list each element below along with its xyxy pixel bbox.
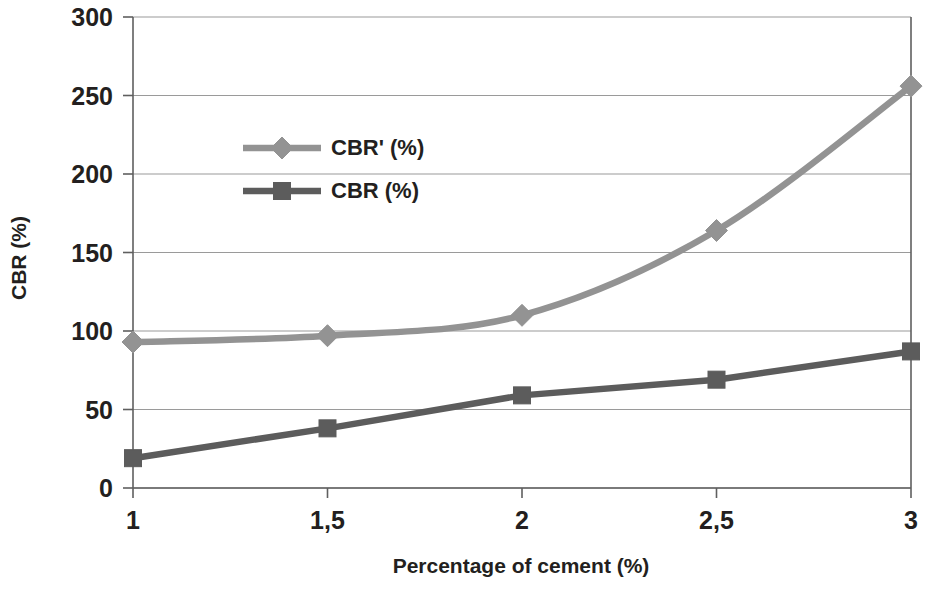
y-tick-label: 50 [85,396,113,424]
legend-label: CBR' (%) [331,135,424,160]
legend-label: CBR (%) [331,178,419,203]
cbr-vs-cement-line-chart: 050100150200250300 11,522,53 CBR' (%)CBR… [0,0,930,592]
square-marker-icon [274,183,291,200]
y-tick-label: 200 [71,160,113,188]
chart-legend: CBR' (%)CBR (%) [243,135,424,203]
y-axis-tick-marks [123,17,133,488]
x-axis-title: Percentage of cement (%) [393,554,650,577]
x-tick-label: 3 [904,506,918,534]
diamond-marker-icon [122,331,144,353]
square-marker-icon [514,387,531,404]
square-marker-icon [708,371,725,388]
diamond-marker-icon [271,137,293,159]
x-axis-tick-labels: 11,522,53 [126,506,918,534]
x-tick-label: 1 [126,506,140,534]
series-line-2 [133,351,911,458]
square-marker-icon [903,343,920,360]
y-tick-label: 100 [71,317,113,345]
y-tick-label: 0 [99,474,113,502]
series-1 [122,75,922,353]
x-tick-label: 2 [515,506,529,534]
y-tick-label: 300 [71,3,113,31]
diamond-marker-icon [317,325,339,347]
gridlines [133,17,911,488]
legend-entry-2[interactable]: CBR (%) [243,178,419,203]
square-marker-icon [319,420,336,437]
y-axis-title: CBR (%) [7,216,30,300]
data-series [122,75,922,467]
series-2 [125,343,920,467]
y-tick-label: 150 [71,239,113,267]
x-axis-tick-marks [133,488,911,498]
y-tick-label: 250 [71,82,113,110]
chart-canvas: 050100150200250300 11,522,53 CBR' (%)CBR… [0,0,930,592]
y-axis-tick-labels: 050100150200250300 [71,3,113,502]
x-tick-label: 1,5 [310,506,345,534]
square-marker-icon [125,450,142,467]
x-tick-label: 2,5 [699,506,734,534]
legend-entry-1[interactable]: CBR' (%) [243,135,424,160]
diamond-marker-icon [511,304,533,326]
